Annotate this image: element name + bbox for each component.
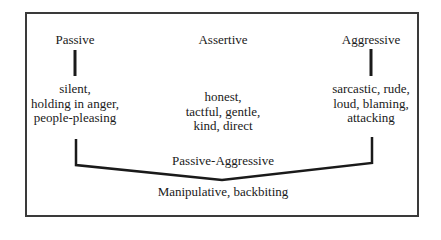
passive-trait: silent, [31, 82, 119, 97]
assertive-trait: honest, [186, 90, 261, 105]
assertive-trait: tactful, gentle, [186, 105, 261, 120]
passive-trait: holding in anger, [31, 97, 119, 112]
passive-aggressive-heading: Passive-Aggressive [172, 154, 274, 168]
assertive-traits: honest, tactful, gentle, kind, direct [186, 90, 261, 134]
passive-trait: people-pleasing [31, 111, 119, 126]
aggressive-traits: sarcastic, rude, loud, blaming, attackin… [332, 82, 410, 126]
aggressive-trait: attacking [332, 111, 410, 126]
aggressive-trait: sarcastic, rude, [332, 82, 410, 97]
assertive-trait: kind, direct [186, 119, 261, 134]
assertive-heading: Assertive [198, 33, 247, 47]
aggressive-heading: Aggressive [342, 33, 401, 47]
passive-aggressive-traits: Manipulative, backbiting [158, 185, 289, 199]
aggressive-trait: loud, blaming, [332, 97, 410, 112]
passive-heading: Passive [56, 33, 95, 47]
passive-traits: silent, holding in anger, people-pleasin… [31, 82, 119, 126]
